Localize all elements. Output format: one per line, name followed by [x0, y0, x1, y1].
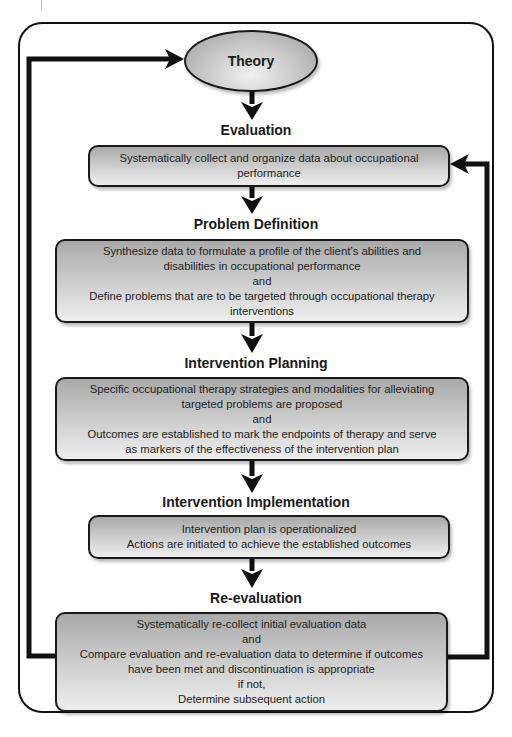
intervention-planning-heading: Intervention Planning: [0, 355, 512, 371]
theory-label: Theory: [228, 53, 275, 69]
planning-line-4: Outcomes are established to mark the end…: [63, 427, 461, 442]
planning-line-1: Specific occupational therapy strategies…: [63, 382, 461, 397]
evaluation-box: Systematically collect and organize data…: [88, 145, 450, 187]
reeval-line-4: have been met and discontinuation is app…: [63, 662, 440, 677]
problem-line-4: Define problems that are to be targeted …: [63, 289, 461, 304]
down-arrow-evaluation-problem: [241, 187, 263, 214]
arrowhead-down-icon: [241, 102, 263, 120]
evaluation-heading: Evaluation: [0, 122, 512, 138]
implementation-line-1: Intervention plan is operationalized: [96, 522, 442, 537]
planning-line-2: targeted problems are proposed: [63, 397, 461, 412]
planning-line-5: as markers of the effectiveness of the i…: [63, 442, 461, 457]
problem-line-3: and: [63, 274, 461, 289]
down-arrow-planning-implementation: [241, 461, 263, 493]
re-evaluation-box: Systematically re-collect initial evalua…: [55, 612, 448, 712]
problem-definition-box: Synthesize data to formulate a profile o…: [55, 239, 469, 323]
arrowhead-down-icon: [241, 196, 263, 214]
down-arrow-theory-evaluation: [241, 92, 263, 120]
problem-line-2: disabilities in occupational performance: [63, 259, 461, 274]
left-feedback-arrow: [29, 49, 184, 656]
problem-line-1: Synthesize data to formulate a profile o…: [63, 244, 461, 259]
reeval-line-3: Compare evaluation and re-evaluation dat…: [63, 647, 440, 662]
evaluation-line-1: Systematically collect and organize data…: [96, 151, 442, 166]
planning-line-3: and: [63, 412, 461, 427]
evaluation-line-2: performance: [96, 166, 442, 181]
reeval-line-2: and: [63, 632, 440, 647]
arrowhead-down-icon: [241, 474, 263, 493]
reeval-line-1: Systematically re-collect initial evalua…: [63, 617, 440, 632]
re-evaluation-heading: Re-evaluation: [0, 590, 512, 606]
problem-definition-heading: Problem Definition: [0, 216, 512, 232]
implementation-line-2: Actions are initiated to achieve the est…: [96, 537, 442, 552]
reeval-line-6: Determine subsequent action: [63, 692, 440, 707]
problem-line-5: interventions: [63, 304, 461, 319]
intervention-planning-box: Specific occupational therapy strategies…: [55, 377, 469, 461]
arrowhead-down-icon: [241, 334, 263, 353]
reeval-line-5: if not,: [63, 677, 440, 692]
down-arrow-problem-planning: [241, 323, 263, 353]
intervention-implementation-heading: Intervention Implementation: [0, 494, 512, 510]
arrowhead-down-icon: [241, 569, 263, 588]
theory-node: Theory: [184, 30, 318, 92]
down-arrow-implementation-reevaluation: [241, 559, 263, 588]
intervention-implementation-box: Intervention plan is operationalized Act…: [88, 515, 450, 559]
